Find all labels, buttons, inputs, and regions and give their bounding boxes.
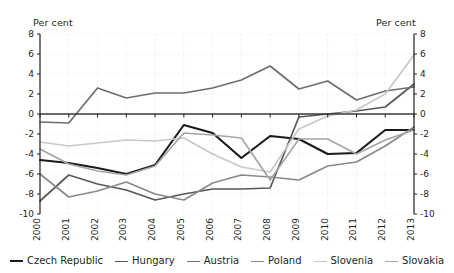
legend-item-label: Hungary [132,256,175,266]
legend-item-austria[interactable]: Austria [187,256,239,266]
svg-text:2: 2 [420,89,426,99]
left-y-tick-labels: 86420-2-4-6-8-10 [19,29,34,219]
legend-item-label: Austria [204,256,239,266]
svg-text:-6: -6 [420,169,429,179]
svg-text:2001: 2001 [61,218,71,241]
svg-text:0: 0 [420,109,426,119]
legend-item-slovenia[interactable]: Slovenia [314,256,374,266]
legend-item-poland[interactable]: Poland [251,256,301,266]
svg-text:2003: 2003 [118,218,128,241]
svg-text:2007: 2007 [233,218,243,241]
svg-text:2013: 2013 [406,218,416,241]
svg-text:4: 4 [420,69,426,79]
vertical-grid-lines [40,34,414,214]
grid-lines [40,34,414,214]
svg-text:2006: 2006 [205,218,215,241]
legend-item-czech-republic[interactable]: Czech Republic [10,256,103,266]
svg-text:2004: 2004 [147,218,157,241]
chart-container: Per cent Per cent 86420-2-4-6-8-10 86420… [0,0,454,273]
x-tick-labels: 2000200120022003200420052006200720082009… [32,218,416,241]
svg-text:8: 8 [420,29,426,39]
svg-text:-8: -8 [420,189,429,199]
svg-text:2: 2 [28,89,34,99]
svg-text:4: 4 [28,69,34,79]
svg-text:-10: -10 [19,209,34,219]
svg-text:-6: -6 [25,169,34,179]
svg-text:-2: -2 [25,129,34,139]
legend-item-label: Slovenia [331,256,374,266]
legend-item-label: Slovakia [402,256,444,266]
svg-text:6: 6 [28,49,34,59]
svg-text:2009: 2009 [291,218,301,241]
legend-item-slovakia[interactable]: Slovakia [385,256,444,266]
legend-item-label: Poland [268,256,301,266]
svg-text:-2: -2 [420,129,429,139]
legend-item-hungary[interactable]: Hungary [115,256,175,266]
svg-text:-10: -10 [420,209,435,219]
svg-text:2010: 2010 [320,218,330,241]
svg-text:2002: 2002 [90,218,100,241]
legend-swatch-icon [251,261,264,262]
svg-text:2005: 2005 [176,218,186,241]
axis-spines [37,34,417,214]
svg-text:2000: 2000 [32,218,42,241]
svg-text:8: 8 [28,29,34,39]
legend-item-label: Czech Republic [27,256,103,266]
chart-legend: Czech RepublicHungaryAustriaPolandSloven… [0,249,454,273]
svg-text:6: 6 [420,49,426,59]
line-chart-plot: 86420-2-4-6-8-10 86420-2-4-6-8-10 200020… [0,0,454,273]
svg-text:-4: -4 [25,149,34,159]
legend-swatch-icon [385,261,398,262]
series-lines [40,55,414,201]
legend-swatch-icon [10,260,23,262]
svg-text:-8: -8 [25,189,34,199]
svg-text:0: 0 [28,109,34,119]
legend-swatch-icon [115,261,128,262]
svg-text:2012: 2012 [377,218,387,241]
svg-text:2011: 2011 [348,218,358,241]
svg-text:-4: -4 [420,149,429,159]
svg-text:2008: 2008 [262,218,272,241]
legend-swatch-icon [187,261,200,262]
right-y-tick-labels: 86420-2-4-6-8-10 [420,29,435,219]
legend-swatch-icon [314,261,327,262]
